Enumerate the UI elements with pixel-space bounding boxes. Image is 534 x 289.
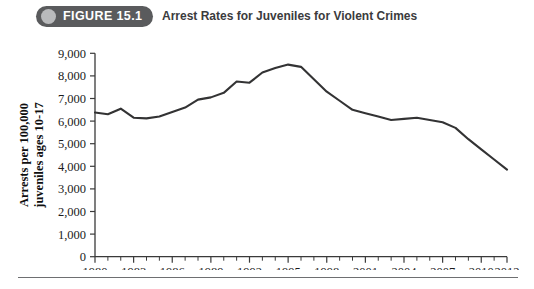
y-axis-title: Arrests per 100,000juveniles ages 10-17: [17, 102, 46, 209]
y-axis-title-line: juveniles ages 10-17: [32, 102, 46, 209]
y-tick-label: 1,000: [58, 228, 86, 242]
figure-number-label: FIGURE 15.1: [63, 10, 142, 23]
x-tick-label: 1986: [160, 265, 185, 270]
x-tick-label: 1980: [83, 265, 108, 270]
y-axis: [90, 53, 95, 256]
x-axis-tick-labels: 1980198319861989199219951998200120042007…: [83, 265, 520, 270]
figure-number-badge: FIGURE 15.1: [36, 6, 153, 27]
bottom-divider: [18, 277, 518, 278]
y-tick-label: 4,000: [58, 160, 86, 174]
x-tick-label: 1989: [198, 265, 223, 270]
x-tick-label: 1983: [121, 265, 146, 270]
y-axis-title-line: Arrests per 100,000: [17, 103, 31, 207]
y-tick-label: 5,000: [58, 137, 86, 151]
x-tick-label: 2007: [430, 265, 455, 270]
figure-title: Arrest Rates for Juveniles for Violent C…: [162, 9, 417, 23]
x-tick-label: 2010: [469, 265, 494, 270]
y-tick-label: 6,000: [58, 115, 86, 129]
x-tick-label: 2001: [353, 265, 378, 270]
x-tick-label: 2004: [392, 265, 418, 270]
x-tick-label: 2012: [495, 265, 520, 270]
data-series-line: [95, 65, 507, 170]
figure-header: FIGURE 15.1 Arrest Rates for Juveniles f…: [0, 0, 534, 34]
y-tick-label: 3,000: [58, 182, 86, 196]
y-tick-label: 0: [80, 250, 86, 264]
y-tick-label: 9,000: [58, 47, 86, 61]
y-tick-label: 8,000: [58, 69, 86, 83]
badge-circle-icon: [41, 9, 56, 24]
y-tick-label: 7,000: [58, 92, 86, 106]
line-chart: 9,0008,0007,0006,0005,0004,0003,0002,000…: [0, 34, 534, 270]
x-tick-label: 1992: [237, 265, 262, 270]
chart-area: 9,0008,0007,0006,0005,0004,0003,0002,000…: [0, 34, 534, 270]
x-tick-label: 1998: [314, 265, 339, 270]
x-tick-label: 1995: [276, 265, 301, 270]
y-axis-tick-labels: 9,0008,0007,0006,0005,0004,0003,0002,000…: [58, 47, 86, 264]
y-tick-label: 2,000: [58, 205, 86, 219]
x-axis: [95, 257, 507, 263]
